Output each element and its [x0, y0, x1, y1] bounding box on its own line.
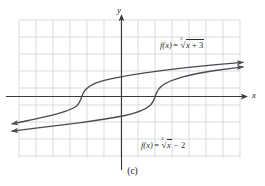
lower-radical-index: 3: [161, 136, 164, 141]
lower-radicand: x: [167, 139, 172, 149]
y-axis-label: y: [117, 6, 121, 15]
upper-radical-expression: 3√x + 3: [180, 39, 205, 50]
upper-equals-sign: =: [173, 40, 178, 50]
x-axis-label: x: [252, 91, 256, 100]
upper-operand: 3: [199, 40, 203, 50]
curve-label-lower: f(x)=3√x − 2: [141, 139, 185, 150]
grid-lines: [19, 20, 240, 158]
upper-radical-index: 3: [180, 36, 183, 41]
lower-equals-sign: =: [154, 140, 159, 150]
curve-label-upper: f(x)=3√x + 3: [160, 39, 204, 50]
figure-caption: (c): [0, 166, 265, 176]
graph-plot-area: [0, 0, 265, 186]
figure-container: y x f(x)=3√x + 3 f(x)=3√x − 2 (c): [0, 0, 265, 186]
lower-radicand-variable: x: [167, 140, 171, 150]
upper-radicand: x + 3: [186, 39, 205, 49]
curve-lower: [12, 67, 243, 131]
lower-radical-expression: 3√x: [161, 139, 172, 150]
coordinate-axes: [6, 15, 247, 170]
upper-function-name: f(x): [160, 40, 172, 50]
lower-function-name: f(x): [141, 140, 153, 150]
lower-operand: 2: [181, 140, 185, 150]
